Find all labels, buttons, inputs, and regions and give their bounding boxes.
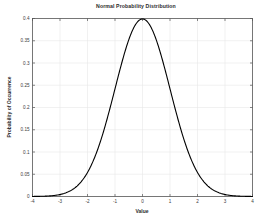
y-tick-label: 0.4: [23, 16, 30, 21]
x-tick-label: -3: [58, 199, 63, 204]
y-tick-label: 0: [27, 194, 30, 199]
x-axis-title: Value: [135, 208, 148, 214]
y-tick-label: 0.15: [21, 127, 30, 132]
y-tick-label: 0.2: [23, 105, 30, 110]
x-tick-label: 3: [224, 199, 227, 204]
x-tick-label: 4: [251, 199, 254, 204]
figure-canvas: Normal Probability Distribution -4-3-2-1…: [0, 0, 272, 222]
y-tick-label: 0.25: [21, 83, 30, 88]
y-tick-label: 0.3: [23, 61, 30, 66]
plot-area: -4-3-2-101234 00.050.10.150.20.250.30.35…: [0, 0, 272, 222]
x-tick-label: -4: [30, 199, 35, 204]
y-axis-title: Probability of Occurrence: [6, 76, 12, 137]
grid-lines: [33, 19, 253, 197]
x-tick-label: 2: [196, 199, 199, 204]
y-tick-label: 0.1: [23, 150, 30, 155]
x-tick-label: -2: [85, 199, 90, 204]
y-tick-label: 0.05: [21, 172, 30, 177]
y-tick-label: 0.35: [21, 38, 30, 43]
x-axis-tick-labels: -4-3-2-101234: [30, 199, 254, 204]
x-tick-label: 1: [169, 199, 172, 204]
x-tick-label: -1: [113, 199, 118, 204]
x-tick-label: 0: [141, 199, 144, 204]
y-axis-tick-labels: 00.050.10.150.20.250.30.350.4: [21, 16, 30, 199]
